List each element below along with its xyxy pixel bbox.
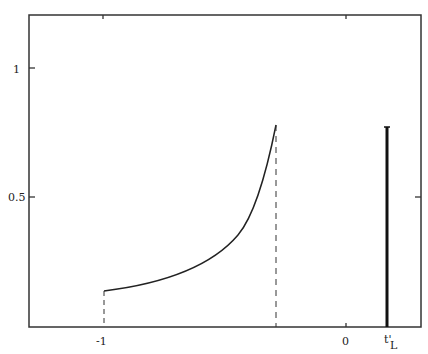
x-label-neg1: -1 [96, 335, 107, 348]
plot-frame [29, 15, 421, 327]
x-label-0: 0 [342, 335, 349, 348]
chart: 1 0.5 -1 0 t' L [0, 0, 428, 354]
curve-line [104, 125, 276, 291]
y-label-0.5: 0.5 [8, 191, 26, 204]
x-label-tl-sub: L [390, 339, 398, 352]
y-label-1: 1 [13, 63, 20, 76]
